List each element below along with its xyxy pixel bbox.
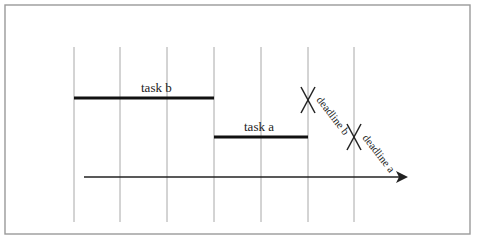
deadline-a: deadline a: [347, 124, 398, 175]
tasks: task btask a: [74, 80, 308, 137]
task-label: task a: [244, 119, 274, 134]
task-task-b: task b: [74, 80, 214, 98]
deadline-label: deadline b: [314, 94, 352, 138]
task-label: task b: [141, 80, 172, 95]
diagram-frame: [5, 5, 470, 234]
deadline-b: deadline b: [301, 87, 352, 137]
deadlines: deadline bdeadline a: [301, 87, 398, 175]
time-axis: [84, 171, 408, 183]
timeline-diagram: task btask a deadline bdeadline a: [0, 0, 478, 241]
deadline-label: deadline a: [360, 132, 397, 175]
grid-lines: [74, 47, 354, 222]
